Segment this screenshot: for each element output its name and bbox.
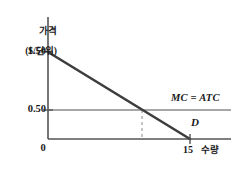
demand-curve-label: D xyxy=(191,117,199,129)
y-axis-title-line1: 가격 xyxy=(39,25,57,36)
origin-label: 0 xyxy=(36,142,50,153)
x-axis-title: 수량 xyxy=(201,145,219,155)
economics-chart-screenshot: 가격 ($/단위) 1.50 0.50 0 15 수량 MC = ATC D xyxy=(0,0,233,171)
y-tick-label-050: 0.50 xyxy=(14,103,46,114)
x-tick-label-15: 15 xyxy=(178,145,198,156)
mc-atc-curve-label: MC = ATC xyxy=(171,92,220,103)
y-tick-label-150: 1.50 xyxy=(14,45,46,56)
